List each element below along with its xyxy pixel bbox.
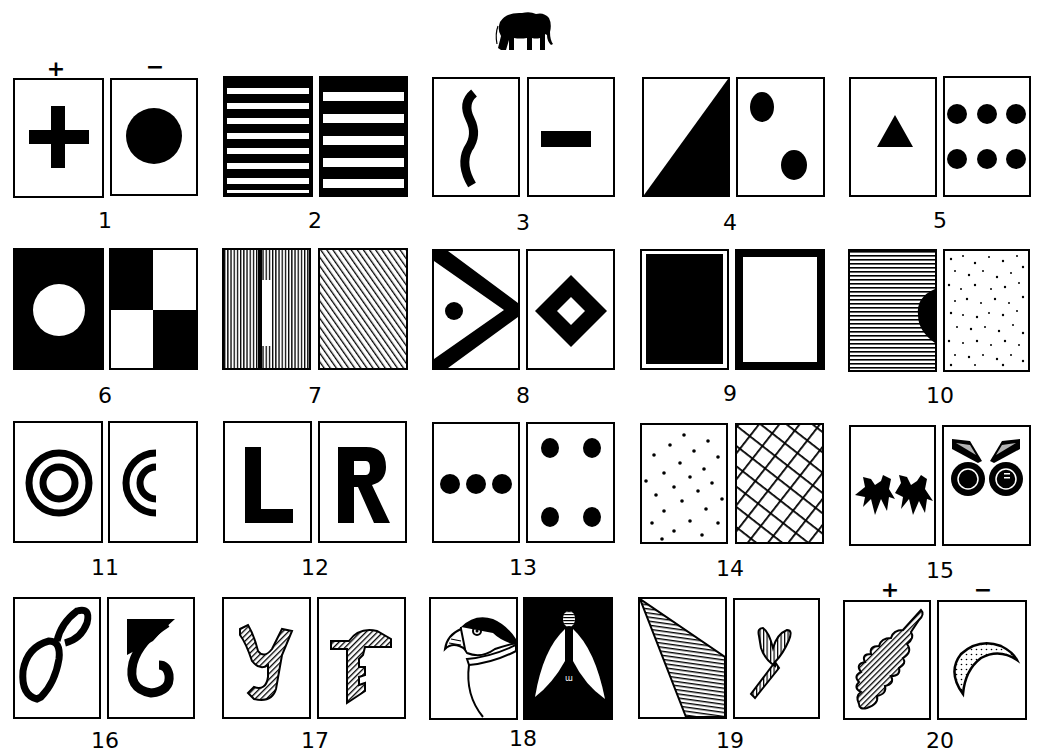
card-19-right-hatched-sprout bbox=[733, 598, 820, 719]
puffin-icon bbox=[431, 599, 516, 718]
card-1-left-cross bbox=[13, 78, 104, 198]
letter-r-icon bbox=[320, 423, 405, 541]
two-dots-icon bbox=[738, 79, 823, 195]
card-9-left-black-rect bbox=[640, 249, 729, 370]
pair-number: 3 bbox=[493, 212, 553, 234]
oak-leaf-icon bbox=[845, 602, 929, 718]
card-8-right-diamond bbox=[526, 249, 615, 370]
pair-number: 4 bbox=[700, 212, 760, 234]
pair-number: 20 bbox=[910, 730, 970, 749]
filled-circle-icon bbox=[112, 80, 196, 194]
pair-number: 5 bbox=[910, 210, 970, 232]
card-13-left-three-dots bbox=[432, 422, 520, 543]
white-circle-icon bbox=[15, 250, 102, 368]
card-10-right-random-dots bbox=[943, 249, 1030, 372]
hatched-t-icon bbox=[319, 599, 404, 717]
card-5-right-six-dots bbox=[943, 76, 1031, 197]
lattice-icon bbox=[737, 425, 822, 542]
pair-number: 15 bbox=[910, 560, 970, 582]
pair-number: 6 bbox=[75, 385, 135, 407]
plus-cross-icon bbox=[15, 80, 102, 196]
card-12-right-R bbox=[318, 421, 407, 543]
card-7-left-vertical-lines bbox=[222, 248, 311, 370]
card-8-left-chevron bbox=[432, 249, 520, 370]
card-2-right-wide-stripes bbox=[319, 76, 408, 197]
pair-number: 8 bbox=[493, 385, 553, 407]
pair-number: 7 bbox=[285, 385, 345, 407]
random-dots-icon bbox=[945, 251, 1028, 370]
card-20-left-oak-leaf bbox=[843, 600, 931, 720]
lines-half-disc-icon bbox=[850, 251, 935, 370]
card-11-right-half-rings bbox=[108, 421, 198, 543]
card-19-left-hatched-triangle bbox=[638, 597, 727, 719]
card-13-right-four-dots bbox=[526, 422, 615, 543]
card-11-left-rings bbox=[13, 421, 103, 543]
card-15-right-owl-eyes bbox=[942, 425, 1031, 546]
letter-l-icon bbox=[225, 423, 310, 541]
chevron-dot-icon bbox=[434, 251, 518, 368]
card-4-left-diagonal bbox=[642, 77, 730, 197]
card-5-left-triangle bbox=[849, 77, 937, 197]
diagonal-half-icon bbox=[644, 79, 728, 195]
elephant-icon bbox=[492, 8, 558, 52]
svg-text:ɯ: ɯ bbox=[565, 674, 573, 683]
card-20-right-crescent bbox=[937, 600, 1027, 720]
card-1-right-circle bbox=[110, 78, 198, 196]
pair-number: 10 bbox=[910, 385, 970, 407]
vertical-lines-icon bbox=[224, 250, 309, 368]
three-dots-icon bbox=[434, 424, 518, 541]
card-18-right-snowdrop: ɯ bbox=[523, 597, 613, 720]
half-rings-icon bbox=[110, 423, 196, 541]
sparse-dots-icon bbox=[642, 425, 726, 542]
hatched-y-icon bbox=[224, 599, 309, 717]
hatched-sprout-icon bbox=[735, 600, 818, 717]
black-rectangle-icon bbox=[642, 251, 727, 368]
wide-stripes-icon bbox=[321, 78, 406, 195]
card-16-right-hook bbox=[107, 597, 195, 719]
pair-number: 14 bbox=[700, 558, 760, 580]
six-dots-icon bbox=[945, 78, 1029, 195]
owl-eyes-icon bbox=[944, 427, 1029, 544]
card-6-right-checkerboard bbox=[109, 248, 198, 370]
minus-sign: − bbox=[971, 579, 995, 601]
narrow-stripes-icon bbox=[225, 78, 311, 195]
card-18-left-puffin bbox=[429, 597, 518, 720]
diagonal-hatch-icon bbox=[320, 250, 406, 368]
pair-number: 2 bbox=[285, 210, 345, 232]
pair-number: 18 bbox=[493, 728, 553, 749]
checkerboard-icon bbox=[111, 250, 196, 368]
plus-sign: + bbox=[878, 579, 902, 601]
pair-number: 11 bbox=[75, 557, 135, 579]
claws-icon bbox=[851, 427, 934, 544]
pair-number: 19 bbox=[700, 730, 760, 749]
pair-number: 13 bbox=[493, 557, 553, 579]
pair-number: 17 bbox=[285, 730, 345, 749]
hollow-diamond-icon bbox=[528, 251, 613, 368]
card-17-left-hatched-y bbox=[222, 597, 311, 719]
horizontal-bar-icon bbox=[529, 79, 613, 195]
four-dots-icon bbox=[528, 424, 613, 541]
pair-number: 16 bbox=[75, 730, 135, 749]
card-2-left-narrow-stripes bbox=[223, 76, 313, 197]
plus-sign: + bbox=[44, 58, 68, 80]
concentric-rings-icon bbox=[15, 423, 101, 541]
pair-number: 9 bbox=[700, 383, 760, 405]
card-14-right-lattice bbox=[735, 423, 824, 544]
card-4-right-two-dots bbox=[736, 77, 825, 197]
hook-icon bbox=[109, 599, 193, 717]
card-16-left-figure-eight bbox=[13, 597, 101, 719]
pair-number: 1 bbox=[75, 210, 135, 232]
card-10-left-lines-half-disc bbox=[848, 249, 937, 372]
card-15-left-claws bbox=[849, 425, 936, 546]
snowdrop-icon: ɯ bbox=[525, 599, 611, 718]
triangle-icon bbox=[851, 79, 935, 195]
card-6-left-white-circle bbox=[13, 248, 104, 370]
card-17-right-hatched-t bbox=[317, 597, 406, 719]
wavy-line-icon bbox=[434, 79, 518, 195]
card-7-right-diagonal-hatch bbox=[318, 248, 408, 370]
card-9-right-frame bbox=[735, 249, 825, 370]
pair-number: 12 bbox=[285, 557, 345, 579]
hatched-triangle-icon bbox=[640, 599, 725, 717]
card-3-left-wave bbox=[432, 77, 520, 197]
figure-eight-icon bbox=[15, 599, 99, 717]
